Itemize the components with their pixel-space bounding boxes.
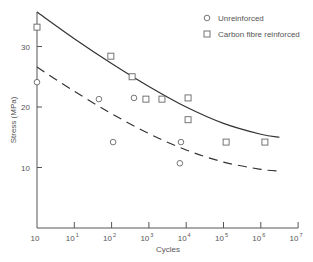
- square-marker: [159, 96, 165, 102]
- circle-marker: [131, 95, 137, 101]
- x-tick-label: 101: [66, 232, 79, 243]
- x-tick-label: 105: [215, 232, 228, 243]
- circle-marker: [34, 79, 40, 85]
- legend-circle-icon: [204, 15, 210, 21]
- square-marker: [185, 117, 191, 123]
- y-axis-label: Stress (MPa): [9, 96, 18, 143]
- stress-cycles-chart: 10203010101102103104105106107 Unreinforc…: [0, 0, 313, 262]
- x-tick-label: 102: [103, 232, 116, 243]
- legend-square-icon: [204, 31, 210, 37]
- y-tick-label: 20: [21, 103, 30, 112]
- x-tick-label: 107: [290, 232, 303, 243]
- circle-marker: [96, 96, 102, 102]
- square-marker: [262, 139, 268, 145]
- square-marker: [185, 95, 191, 101]
- x-tick-label: 104: [178, 232, 191, 243]
- y-tick-label: 10: [21, 164, 30, 173]
- circle-marker: [110, 139, 116, 145]
- unreinforced-fit-line: [37, 67, 279, 171]
- legend-label: Unreinforced: [218, 14, 264, 23]
- square-marker: [108, 53, 114, 59]
- x-tick-label: 103: [140, 232, 153, 243]
- circle-marker: [177, 160, 183, 166]
- axes: 10203010101102103104105106107: [21, 12, 302, 243]
- square-marker: [34, 24, 40, 30]
- square-marker: [223, 139, 229, 145]
- square-marker: [129, 74, 135, 80]
- x-tick-label: 106: [252, 232, 265, 243]
- legend-label: Carbon fibre reinforced: [218, 30, 300, 39]
- legend: UnreinforcedCarbon fibre reinforced: [204, 14, 300, 39]
- x-tick-label: 10: [31, 234, 40, 243]
- x-axis-label: Cycles: [156, 245, 180, 254]
- circle-marker: [178, 139, 184, 145]
- square-marker: [143, 96, 149, 102]
- y-tick-label: 30: [21, 43, 30, 52]
- data-markers: [34, 24, 268, 166]
